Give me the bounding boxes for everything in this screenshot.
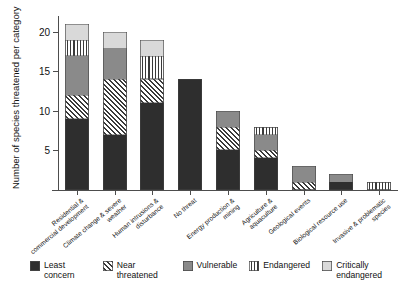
bar [216,111,240,190]
bar-segment [65,40,89,56]
legend-swatch [103,261,113,271]
bar-segment [292,182,316,190]
bar [329,174,353,190]
y-axis-title: Number of species threatened per categor… [0,0,32,195]
legend-item: Critically endangered [322,260,390,280]
legend-swatch [249,261,259,271]
legend-label: Endangered [263,260,310,270]
y-tick [53,150,58,151]
y-tick-label: 5 [44,145,50,156]
bar-segment [254,127,278,135]
y-tick-label: 15 [39,66,50,77]
bar-segment [367,182,391,190]
y-axis-title-text: Number of species threatened per categor… [9,6,21,189]
stacked-bar-chart: Number of species threatened per categor… [0,0,408,303]
bar-segment [329,174,353,182]
bar [65,24,89,190]
legend-item: Least concern [30,260,91,280]
y-tick-label: 10 [39,105,50,116]
bar-segment [178,79,202,190]
bar-segment [216,111,240,127]
legend-label: Least concern [44,260,91,280]
legend-item: Endangered [249,260,310,271]
bar-segment [65,56,89,96]
bar [367,182,391,190]
legend-item: Near threatened [103,260,171,280]
bar [292,166,316,190]
legend-label: Vulnerable [197,260,238,270]
bar [103,32,127,190]
legend-label: Critically endangered [336,260,390,280]
bar-segment [65,95,89,119]
y-tick-label: 20 [39,26,50,37]
bar-segment [140,79,164,103]
bar-segment [103,48,127,80]
legend-label: Near threatened [117,260,171,280]
bar [140,40,164,190]
bar-segment [140,40,164,56]
bar-segment [292,166,316,182]
bar [178,79,202,190]
bar-segment [140,103,164,190]
legend-item: Vulnerable [183,260,238,271]
bar-segment [103,32,127,48]
bar-segment [216,150,240,190]
bar-segment [103,135,127,190]
bar-segment [103,79,127,134]
y-tick [53,71,58,72]
bar-segment [65,24,89,40]
plot-area: 5101520 [58,16,398,190]
chart-legend: Least concernNear threatenedVulnerableEn… [30,260,402,296]
legend-swatch [322,261,332,271]
legend-swatch [183,261,193,271]
bar-segment [254,158,278,190]
y-axis-line [58,16,59,190]
y-tick [53,32,58,33]
bar-segment [254,150,278,158]
bar [254,127,278,190]
bar-segment [65,119,89,190]
legend-swatch [30,261,40,271]
bar-segment [254,135,278,151]
y-tick [53,111,58,112]
bar-segment [329,182,353,190]
bar-segment [216,127,240,151]
bar-segment [140,56,164,80]
x-axis-labels: Residential & commercial developmentClim… [58,194,398,252]
